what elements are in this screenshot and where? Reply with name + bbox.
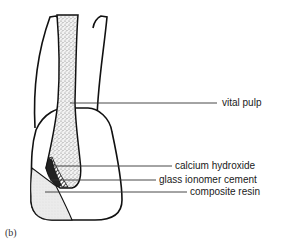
label-composite-resin: composite resin bbox=[190, 186, 260, 198]
label-vital-pulp: vital pulp bbox=[222, 97, 261, 109]
label-calcium-hydroxide: calcium hydroxide bbox=[175, 160, 255, 172]
tooth-diagram bbox=[0, 0, 283, 247]
label-glass-ionomer-cement: glass ionomer cement bbox=[159, 174, 257, 186]
panel-label: (b) bbox=[5, 227, 17, 238]
